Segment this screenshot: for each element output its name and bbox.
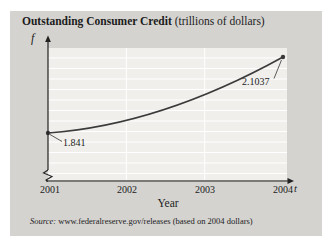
x-tick-2002: 2002 xyxy=(117,184,137,195)
source-text: www.federalreserve.gov/releases (based o… xyxy=(56,216,253,226)
x-tick-2004: 2004 xyxy=(273,184,293,195)
chart-title-bold: Outstanding Consumer Credit xyxy=(22,15,172,27)
data-point-2004 xyxy=(281,55,285,59)
chart-title-units: (trillions of dollars) xyxy=(172,15,265,27)
x-axis-title: Year xyxy=(157,197,178,209)
figure: Outstanding Consumer Credit (trillions o… xyxy=(0,0,330,245)
source-prefix: Source: xyxy=(30,216,56,226)
point-label-21037: 2.1037 xyxy=(242,76,270,87)
source-note: Source: www.federalreserve.gov/releases … xyxy=(30,216,253,226)
x-tick-2001: 2001 xyxy=(40,184,60,195)
y-axis-symbol: f xyxy=(31,31,34,46)
x-axis-symbol: t xyxy=(294,183,297,194)
x-tick-2003: 2003 xyxy=(195,184,215,195)
chart-title: Outstanding Consumer Credit (trillions o… xyxy=(22,15,265,27)
plot-area xyxy=(48,48,287,180)
y-axis-arrowhead xyxy=(45,36,51,43)
point-label-1841: 1.841 xyxy=(63,137,86,148)
